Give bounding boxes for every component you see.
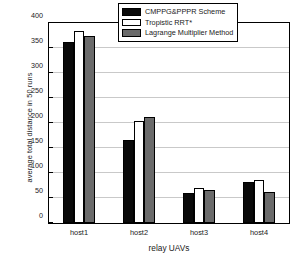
- y-axis-tick-label: 50: [35, 185, 43, 194]
- x-axis-label: relay UAVs: [48, 243, 290, 253]
- legend-item: Lagrange Multiplier Method: [122, 28, 233, 39]
- bar-host1-series0: [63, 42, 73, 224]
- bar-host4-series2: [264, 192, 274, 223]
- x-axis-tick-label-host3: host3: [190, 228, 208, 237]
- legend-item: Tropistic RRT*: [122, 17, 233, 28]
- x-axis-tick-label-host2: host2: [130, 228, 148, 237]
- x-axis-tick-label-host4: host4: [250, 228, 268, 237]
- x-axis-tick-label-host1: host1: [70, 228, 88, 237]
- legend: CMPPG&PPPR SchemeTropistic RRT*Lagrange …: [118, 3, 238, 42]
- legend-swatch-icon: [122, 29, 141, 37]
- bar-host4-series1: [254, 180, 264, 223]
- y-axis-tick-label: 0: [39, 210, 43, 219]
- legend-label: CMPPG&PPPR Scheme: [145, 8, 225, 15]
- legend-label: Tropistic RRT*: [145, 19, 192, 26]
- bar-host4-series0: [243, 182, 253, 223]
- bar-host2-series2: [144, 117, 154, 223]
- y-axis-tick-label: 250: [31, 85, 43, 94]
- bar-host1-series2: [84, 36, 94, 224]
- y-axis-tick-label: 150: [31, 135, 43, 144]
- legend-label: Lagrange Multiplier Method: [145, 29, 233, 36]
- figure: average total distance in 50 runs 050100…: [0, 0, 307, 264]
- bars-layer: [49, 23, 289, 223]
- y-axis-tick-label: 200: [31, 110, 43, 119]
- y-axis-tick-label: 100: [31, 160, 43, 169]
- legend-item: CMPPG&PPPR Scheme: [122, 7, 233, 18]
- y-axis-tick-label: 300: [31, 60, 43, 69]
- legend-swatch-icon: [122, 19, 141, 27]
- bar-host3-series1: [194, 188, 204, 223]
- bar-host2-series1: [134, 121, 144, 224]
- bar-host3-series0: [183, 193, 193, 224]
- bar-host2-series0: [123, 140, 133, 224]
- y-axis-label: average total distance in 50 runs: [25, 28, 34, 228]
- y-axis-tick-label: 400: [31, 10, 43, 19]
- plot-area: 050100150200250300350400 host1host2host3…: [48, 22, 290, 224]
- y-axis-tick-label: 350: [31, 35, 43, 44]
- bar-host3-series2: [204, 190, 214, 223]
- legend-swatch-icon: [122, 8, 141, 16]
- bar-host1-series1: [74, 31, 84, 224]
